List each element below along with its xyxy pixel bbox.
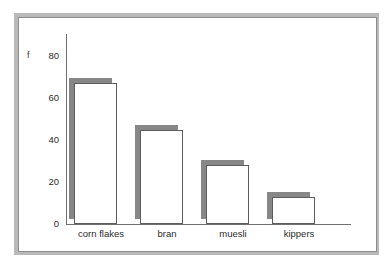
x-tick-label-kippers: kippers xyxy=(259,228,339,239)
plot-area: f 80 60 40 20 0 xyxy=(19,18,378,253)
bar-bran[interactable] xyxy=(140,130,183,225)
bar-group-muesli[interactable] xyxy=(201,160,249,224)
bar-kippers[interactable] xyxy=(272,197,315,224)
bar-series xyxy=(19,18,378,253)
bar-corn-flakes[interactable] xyxy=(74,83,117,224)
bar-muesli[interactable] xyxy=(206,165,249,224)
chart-screenshot: f 80 60 40 20 0 xyxy=(0,0,391,270)
bar-group-corn-flakes[interactable] xyxy=(69,78,117,224)
chart-panel: f 80 60 40 20 0 xyxy=(18,17,377,252)
bar-group-kippers[interactable] xyxy=(267,192,315,224)
bar-group-bran[interactable] xyxy=(135,125,183,225)
